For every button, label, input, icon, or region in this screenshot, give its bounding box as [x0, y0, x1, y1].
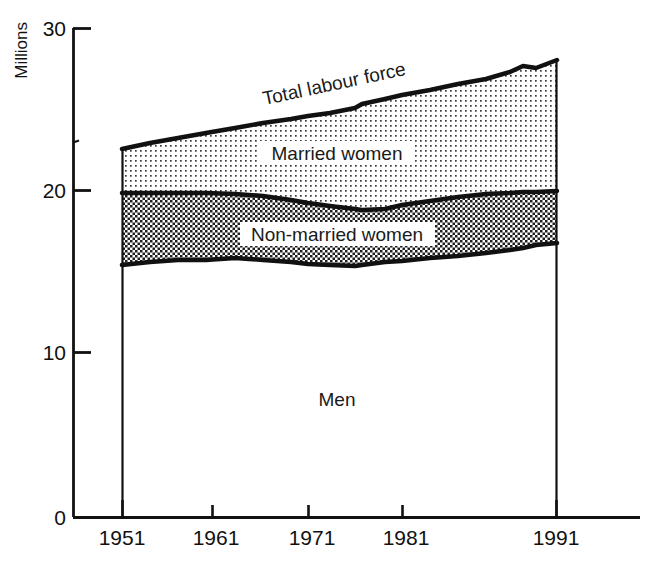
men-label: Men: [319, 389, 356, 410]
x-tick-label-1971: 1971: [289, 526, 336, 549]
band-men: [122, 243, 557, 517]
non-married-women-label: Non-married women: [251, 224, 423, 245]
y-tick-label-20: 20: [43, 179, 66, 202]
labour-force-area-chart: 30 20 10 0 Millions 1951 1961 1971 1981 …: [0, 0, 654, 563]
non-married-women-annotation: Non-married women: [240, 222, 435, 246]
x-tick-label-1981: 1981: [383, 526, 430, 549]
y-tick-label-0: 0: [54, 506, 66, 529]
y-axis-title: Millions: [12, 22, 31, 79]
x-tick-label-1961: 1961: [193, 526, 240, 549]
married-women-label: Married women: [272, 143, 403, 164]
men-annotation: Men: [319, 389, 356, 410]
x-tick-label-1991: 1991: [533, 526, 580, 549]
chart-canvas: 30 20 10 0 Millions 1951 1961 1971 1981 …: [0, 0, 654, 563]
y-tick-label-10: 10: [43, 341, 66, 364]
x-tick-label-1951: 1951: [99, 526, 146, 549]
y-tick-label-30: 30: [43, 17, 66, 40]
married-women-annotation: Married women: [259, 141, 415, 165]
